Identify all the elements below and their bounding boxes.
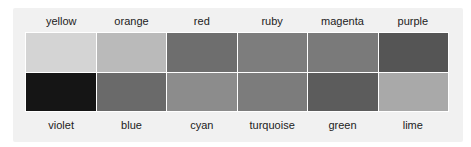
label-violet: violet [26, 118, 96, 132]
label-turquoise: turquoise [237, 118, 307, 132]
label-orange: orange [96, 14, 166, 28]
swatch-magenta[interactable] [308, 33, 378, 72]
swatch-violet[interactable] [26, 73, 96, 112]
swatch-blue[interactable] [97, 73, 167, 112]
top-labels: yellow orange red ruby magenta purple [26, 14, 448, 28]
swatch-ruby[interactable] [238, 33, 308, 72]
label-magenta: magenta [307, 14, 377, 28]
label-cyan: cyan [167, 118, 237, 132]
swatch-red[interactable] [167, 33, 237, 72]
swatch-orange[interactable] [97, 33, 167, 72]
swatch-grid [25, 32, 449, 112]
swatch-cyan[interactable] [167, 73, 237, 112]
bottom-labels: violet blue cyan turquoise green lime [26, 118, 448, 132]
swatch-lime[interactable] [379, 73, 449, 112]
label-lime: lime [378, 118, 448, 132]
label-red: red [167, 14, 237, 28]
swatch-green[interactable] [308, 73, 378, 112]
label-green: green [307, 118, 377, 132]
swatch-turquoise[interactable] [238, 73, 308, 112]
label-purple: purple [378, 14, 448, 28]
label-blue: blue [96, 118, 166, 132]
swatch-yellow[interactable] [26, 33, 96, 72]
label-yellow: yellow [26, 14, 96, 28]
swatch-purple[interactable] [379, 33, 449, 72]
label-ruby: ruby [237, 14, 307, 28]
